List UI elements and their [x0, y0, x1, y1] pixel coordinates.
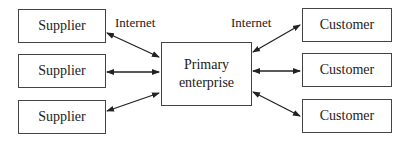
supplier-box-3: Supplier — [18, 100, 106, 134]
supplier-box-1: Supplier — [18, 9, 106, 43]
internet-label-right: Internet — [231, 15, 271, 31]
supplier-label: Supplier — [38, 62, 85, 80]
customer-box-3: Customer — [302, 99, 392, 133]
arrow-supplier1 — [107, 33, 159, 57]
customer-label: Customer — [320, 107, 374, 125]
customer-box-2: Customer — [302, 53, 392, 87]
supplier-box-2: Supplier — [18, 54, 106, 88]
primary-enterprise-box: Primary enterprise — [161, 42, 252, 106]
primary-label-line1: Primary — [184, 56, 229, 74]
customer-box-1: Customer — [302, 8, 392, 42]
customer-label: Customer — [320, 16, 374, 34]
arrow-supplier3 — [107, 93, 159, 111]
arrow-customer3 — [253, 92, 300, 116]
internet-label-left: Internet — [115, 15, 155, 31]
customer-label: Customer — [320, 61, 374, 79]
supplier-label: Supplier — [38, 108, 85, 126]
supplier-label: Supplier — [38, 17, 85, 35]
primary-label-line2: enterprise — [179, 74, 234, 92]
